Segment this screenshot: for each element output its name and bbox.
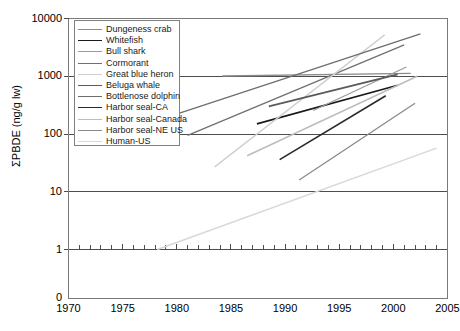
series-line-harbor-seal-ne-us [299,103,415,180]
legend-swatch-icon [78,130,102,131]
legend-item-whitefish[interactable]: Whitefish [78,35,176,46]
x-tick-label-1975: 1975 [99,303,147,314]
y-tick-label-100: 100 [8,128,62,139]
legend-swatch-icon [78,85,102,86]
legend-item-label: Dungeness crab [106,25,172,34]
legend-item-label: Harbor seal-NE US [106,126,183,135]
x-tick-label-2000: 2000 [369,303,417,314]
x-tick-label-1995: 1995 [315,303,363,314]
chart-legend: Dungeness crabWhitefishBull sharkCormora… [74,20,180,146]
legend-item-harbor-seal-canada[interactable]: Harbor seal-Canada [78,114,176,125]
y-tick-label-10: 10 [8,186,62,197]
series-line-cormorant [188,45,405,135]
legend-item-cormorant[interactable]: Cormorant [78,58,176,69]
x-tick-label-1980: 1980 [153,303,201,314]
legend-swatch-icon [78,40,102,41]
y-tick-label-zero: 0 [8,292,62,303]
legend-swatch-icon [78,96,102,97]
y-tick-label-1000: 1000 [8,70,62,81]
legend-item-bull-shark[interactable]: Bull shark [78,46,176,57]
y-tick-label-1: 1 [8,244,62,255]
y-tick-label-10000: 10000 [8,13,62,24]
legend-item-label: Bull shark [106,47,146,56]
chart-canvas [0,0,460,331]
series-line-harbor-seal-canada [247,76,417,156]
y-axis-title: ΣPBDE (ng/g lw) [10,66,22,186]
legend-swatch-icon [78,107,102,108]
series-line-human-us [157,148,436,249]
legend-item-harbor-seal-ca[interactable]: Harbor seal-CA [78,102,176,113]
legend-swatch-icon [78,119,102,120]
legend-item-label: Great blue heron [106,70,174,79]
series-line-dungeness-crab [222,73,410,76]
data-series-group [157,34,436,250]
series-line-harbor-seal-ca [280,96,386,160]
legend-item-human-us[interactable]: Human-US [78,136,176,147]
legend-item-label: Cormorant [106,59,149,68]
x-tick-label-1970: 1970 [45,303,93,314]
legend-swatch-icon [78,141,102,142]
x-tick-label-1985: 1985 [207,303,255,314]
legend-item-label: Harbor seal-Canada [106,115,187,124]
legend-item-label: Human-US [106,137,151,146]
legend-item-label: Bottlenose dolphin [106,92,180,101]
legend-item-bottlenose-dolphin[interactable]: Bottlenose dolphin [78,91,176,102]
chart-root: ΣPBDE (ng/g lw) 1101001000100000 1970197… [0,0,460,331]
legend-item-label: Beluga whale [106,81,160,90]
legend-item-beluga-whale[interactable]: Beluga whale [78,80,176,91]
legend-swatch-icon [78,51,102,52]
x-tick-label-2005: 2005 [424,303,460,314]
legend-item-great-blue-heron[interactable]: Great blue heron [78,69,176,80]
legend-swatch-icon [78,74,102,75]
legend-item-label: Whitefish [106,36,143,45]
legend-item-harbor-seal-ne-us[interactable]: Harbor seal-NE US [78,125,176,136]
legend-item-dungeness-crab[interactable]: Dungeness crab [78,24,176,35]
x-tick-label-1990: 1990 [261,303,309,314]
legend-item-label: Harbor seal-CA [106,103,168,112]
legend-swatch-icon [78,63,102,64]
legend-swatch-icon [78,29,102,30]
